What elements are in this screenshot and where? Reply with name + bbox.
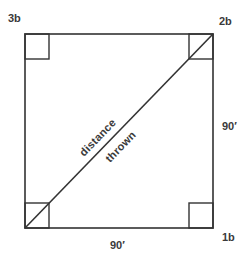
- diagonal-throw-line: [25, 34, 213, 228]
- right-angle-marker-third-base: [25, 34, 49, 59]
- label-second-base: 2b: [219, 15, 232, 27]
- baseball-diamond-diagram: 3b 2b 1b 90′ 90′ distance thrown: [0, 0, 250, 263]
- label-third-base: 3b: [8, 12, 21, 24]
- label-side-bottom-length: 90′: [110, 239, 125, 251]
- label-first-base: 1b: [222, 231, 235, 243]
- right-angle-marker-first-base: [189, 203, 213, 228]
- label-side-right-length: 90′: [222, 120, 237, 132]
